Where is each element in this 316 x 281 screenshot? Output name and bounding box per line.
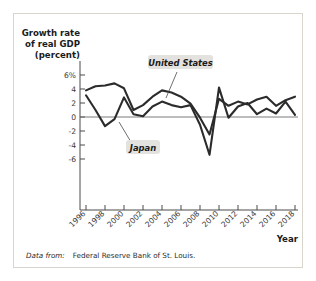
y-tick-label-4: 4 — [71, 85, 76, 94]
x-tick-label-2002: 2002 — [124, 209, 144, 229]
chart-canvas: Growth rate of real GDP (percent) 6% 4 2… — [14, 14, 304, 269]
x-tick-label-2012: 2012 — [219, 209, 239, 229]
series-line-united-states — [86, 83, 295, 134]
annotation-united-states: United States — [148, 55, 213, 98]
series-label-united-states: United States — [148, 58, 213, 68]
x-tick-label-2016: 2016 — [257, 209, 277, 229]
x-tick-label-1998: 1998 — [86, 209, 106, 229]
y-tick-label-2: 2 — [71, 99, 76, 108]
japan-leader-line — [119, 122, 131, 142]
x-tick-label-2010: 2010 — [200, 209, 220, 229]
y-tick-label-0: 0 — [71, 113, 76, 122]
x-tick-label-2018: 2018 — [276, 209, 296, 229]
x-tick-label-2006: 2006 — [162, 209, 182, 229]
figure-panel: Growth rate of real GDP (percent) 6% 4 2… — [13, 13, 303, 268]
x-axis-tick-labels: 1996 1998 2000 2002 2004 2006 2008 2010 … — [67, 209, 296, 229]
y-tick-label-neg6: -6 — [68, 155, 76, 164]
source-note-prefix: Data from: — [26, 251, 65, 260]
source-note-text: Federal Reserve Bank of St. Louis. — [73, 251, 195, 260]
series-label-japan: Japan — [128, 143, 156, 153]
y-axis-title-line1: Growth rate — [22, 28, 80, 38]
y-axis-title-line2: of real GDP — [25, 39, 80, 49]
x-axis-ticks — [86, 205, 295, 210]
source-note: Data from: Federal Reserve Bank of St. L… — [26, 243, 195, 262]
y-axis-title-line3: (percent) — [35, 50, 80, 60]
x-tick-label-1996: 1996 — [67, 209, 87, 229]
y-tick-label-neg4: -4 — [68, 141, 76, 150]
y-tick-label-6: 6% — [64, 71, 76, 80]
x-axis-title: Year — [276, 234, 299, 244]
y-tick-label-neg2: -2 — [68, 127, 76, 136]
annotation-japan: Japan — [119, 122, 160, 154]
x-tick-label-2004: 2004 — [143, 209, 163, 229]
x-tick-label-2014: 2014 — [238, 209, 258, 229]
x-tick-label-2008: 2008 — [181, 209, 201, 229]
gdp-growth-line-chart: Growth rate of real GDP (percent) 6% 4 2… — [14, 14, 304, 269]
x-tick-label-2000: 2000 — [105, 209, 125, 229]
